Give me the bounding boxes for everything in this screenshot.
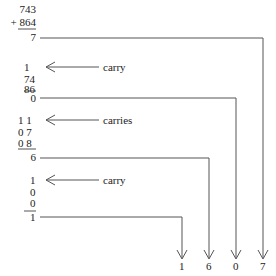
connector-1 bbox=[40, 217, 182, 258]
connector-0 bbox=[40, 98, 236, 258]
hundreds-row-2: 0 8 bbox=[18, 138, 32, 149]
result-digit-thousands: 1 bbox=[30, 212, 36, 223]
addend-2: + 864 bbox=[8, 17, 36, 28]
carries-label: carries bbox=[103, 115, 132, 126]
answer-digit: 1 bbox=[179, 261, 185, 272]
diagram-lines bbox=[0, 0, 276, 276]
carry-digit: 1 bbox=[24, 62, 30, 73]
carry-label-final: carry bbox=[103, 175, 126, 186]
thousands-row-2: 0 bbox=[30, 198, 36, 209]
carry-label: carry bbox=[103, 62, 126, 73]
carry-digit-final: 1 bbox=[30, 175, 36, 186]
answer-digit: 6 bbox=[206, 261, 212, 272]
result-digit-hundreds: 6 bbox=[14, 152, 36, 163]
result-digit-tens: 0 bbox=[14, 93, 36, 104]
addend-1: 743 bbox=[14, 4, 36, 15]
result-digit-ones: 7 bbox=[14, 32, 36, 43]
connector-7 bbox=[40, 38, 263, 258]
answer-digit: 0 bbox=[233, 261, 239, 272]
carries-digits: 1 1 bbox=[18, 115, 32, 126]
connector-6 bbox=[40, 158, 209, 258]
answer-digit: 7 bbox=[260, 261, 266, 272]
